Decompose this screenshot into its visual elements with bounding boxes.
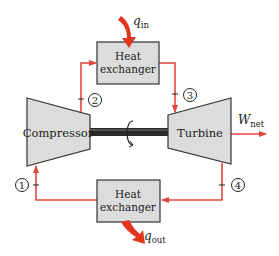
flow-line-1 [36,166,97,200]
svg-text:exchanger: exchanger [100,63,157,75]
svg-text:Heat: Heat [115,188,142,200]
state-marker-4: 4 [232,179,245,192]
compressor-label: Compressor [23,126,94,140]
heat-exchanger-top: Heat exchanger [97,42,159,84]
svg-text:4: 4 [235,180,241,191]
svg-text:1: 1 [19,180,25,191]
w-net-label: Wnet [238,113,265,129]
state-marker-2: 2 [89,94,102,107]
q-in-label: qin [133,14,149,30]
flow-line-3 [159,63,175,112]
compressor: Compressor [23,98,94,166]
state-marker-1: 1 [16,179,29,192]
brayton-cycle-diagram: Compressor Turbine Heat exchanger Heat e… [0,0,279,256]
state-marker-3: 3 [184,89,197,102]
heat-exchanger-bottom: Heat exchanger [97,180,160,222]
svg-text:2: 2 [92,95,98,106]
q-out-label: qout [144,229,166,245]
shaft [90,128,168,136]
turbine: Turbine [168,98,231,164]
heat-out-arrow-icon [121,220,145,244]
svg-text:exchanger: exchanger [100,201,157,213]
turbine-label: Turbine [177,126,223,140]
flow-line-4 [162,163,222,200]
svg-text:Heat: Heat [115,50,142,62]
svg-text:3: 3 [187,90,193,101]
